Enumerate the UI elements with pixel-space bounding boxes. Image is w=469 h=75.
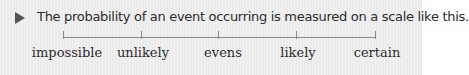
- tick-impossible: [63, 31, 64, 39]
- tick-unlikely: [141, 31, 142, 39]
- scale-line: [63, 37, 376, 38]
- scale-label-certain: certain: [327, 45, 427, 60]
- tick-evens: [218, 31, 219, 39]
- tick-likely: [296, 31, 297, 39]
- intro-sentence: The probability of an event occurring is…: [37, 9, 469, 24]
- tick-certain: [375, 31, 376, 39]
- play-triangle-icon: [15, 12, 25, 24]
- content-panel: The probability of an event occurring is…: [0, 0, 422, 75]
